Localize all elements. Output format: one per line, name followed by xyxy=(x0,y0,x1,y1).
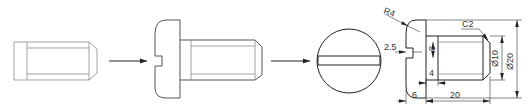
dim-radius-label: R4 xyxy=(382,5,396,18)
dim-neck-length-label: 4 xyxy=(429,68,434,78)
dim-chamfer-label: C2 xyxy=(462,19,474,29)
dim-shank-length-label: 20 xyxy=(450,90,460,100)
dim-shank-diameter-label: Ø10 xyxy=(490,50,500,67)
dim-head-diameter-label: Ø20 xyxy=(505,53,515,70)
dim-head-length-label: 6 xyxy=(412,90,417,100)
dim-slot-width-label: 3 xyxy=(427,46,437,51)
step-end-view xyxy=(317,29,381,93)
step-blank-shank xyxy=(14,42,97,80)
drawing-canvas: R4 C2 2.5 3 4 6 20 Ø10 xyxy=(0,0,528,108)
step-screw-with-head xyxy=(155,20,262,98)
step-dimensioned-view: R4 C2 2.5 3 4 6 20 Ø10 xyxy=(382,5,522,104)
dim-slot-depth-label: 2.5 xyxy=(384,42,397,52)
